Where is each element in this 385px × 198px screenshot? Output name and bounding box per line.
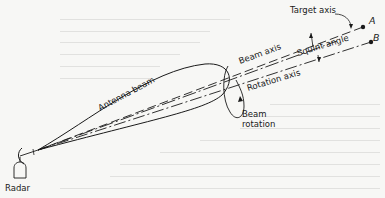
target-axis-leader	[335, 14, 351, 26]
rotation-axis-line	[38, 42, 371, 150]
point-a-marker	[361, 25, 365, 29]
point-b-label: B	[373, 32, 380, 43]
beam-rotation-label-line2: rotation	[242, 119, 275, 129]
beam-rotation-label-line1: Beam	[242, 109, 267, 119]
squint-arrow-upper	[309, 33, 313, 38]
squint-angle-label: Squint angle	[296, 33, 350, 58]
beam-rotation-arrowhead	[238, 96, 243, 102]
beam-rotation-loop	[224, 66, 244, 118]
target-axis-arrowhead	[349, 24, 353, 29]
antenna-beam-lobe	[38, 64, 229, 150]
radar-label: Radar	[5, 183, 31, 193]
conical-scan-diagram: Target axis A B Beam axis Squint angle R…	[0, 0, 385, 198]
point-a-label: A	[368, 15, 376, 26]
beam-axis-line	[38, 41, 337, 150]
target-axis-label: Target axis	[289, 5, 337, 15]
radar-icon	[14, 148, 38, 178]
squint-arrow-lower	[317, 57, 321, 62]
diagram-svg: Target axis A B Beam axis Squint angle R…	[0, 0, 385, 198]
antenna-beam-label: Antenna beam	[96, 75, 156, 113]
beam-axis-label: Beam axis	[237, 41, 283, 66]
